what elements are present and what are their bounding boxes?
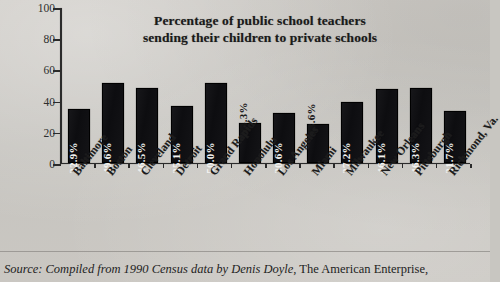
x-tick-mark: [265, 164, 267, 168]
source-publication-name: The American Enterprise,: [296, 262, 428, 276]
x-tick-mark: [436, 164, 438, 168]
y-axis-line: [60, 8, 62, 164]
x-tick-mark: [299, 164, 301, 168]
x-tick-mark: [368, 164, 370, 168]
x-tick-mark: [402, 164, 404, 168]
x-tick-mark: [128, 164, 130, 168]
x-tick-mark: [94, 164, 96, 168]
bar-chart: Percentage of public school teachers sen…: [0, 0, 490, 250]
y-tick-label: 80: [44, 33, 56, 45]
x-tick-mark: [333, 164, 335, 168]
x-tick-mark: [163, 164, 165, 168]
x-tick-mark: [197, 164, 199, 168]
footer-divider: [0, 251, 490, 252]
source-citation: Source: Compiled from 1990 Census data b…: [4, 262, 488, 277]
source-italic-text: Source: Compiled from 1990 Census data b…: [4, 262, 296, 276]
x-tick-mark: [470, 164, 472, 168]
y-tick-label: 20: [44, 127, 56, 139]
y-tick-label: 100: [38, 2, 55, 14]
y-tick-label: 60: [44, 64, 56, 76]
y-tick-label: 40: [44, 96, 56, 108]
x-tick-mark: [231, 164, 233, 168]
y-tick-label: 0: [49, 158, 55, 170]
